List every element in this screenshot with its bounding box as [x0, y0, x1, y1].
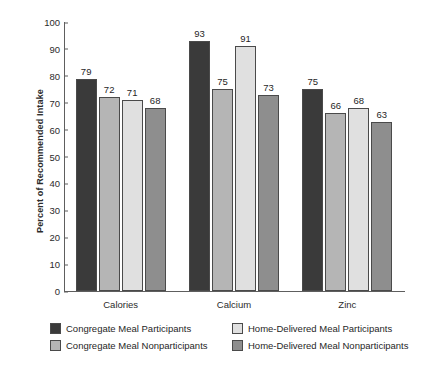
- legend-item[interactable]: Home-Delivered Meal Participants: [232, 323, 430, 334]
- bar-item[interactable]: 93: [189, 22, 210, 291]
- bar-value-label: 68: [354, 95, 365, 106]
- bar[interactable]: [76, 79, 97, 292]
- y-axis-tick-label: 70: [49, 97, 64, 108]
- y-axis-tick: 10: [49, 259, 64, 270]
- bar-item[interactable]: 68: [348, 22, 369, 291]
- bar-item[interactable]: 79: [76, 22, 97, 291]
- bar-group-bars: 79727168: [64, 22, 177, 291]
- y-axis-tick: 50: [49, 151, 64, 162]
- bar[interactable]: [122, 100, 143, 291]
- y-axis-tick: 60: [49, 124, 64, 135]
- legend-label: Home-Delivered Meal Nonparticipants: [248, 340, 409, 351]
- legend-label: Congregate Meal Participants: [66, 323, 191, 334]
- bar[interactable]: [325, 113, 346, 291]
- y-axis-tick: 0: [55, 286, 64, 297]
- bar-value-label: 72: [104, 84, 115, 95]
- y-axis-tick-label: 20: [49, 232, 64, 243]
- bar-item[interactable]: 66: [325, 22, 346, 291]
- bar[interactable]: [371, 122, 392, 291]
- bar-value-label: 68: [150, 95, 161, 106]
- y-axis-tick-label: 10: [49, 259, 64, 270]
- bar-value-label: 93: [194, 28, 205, 39]
- bar-item[interactable]: 75: [302, 22, 323, 291]
- bar-value-label: 71: [127, 87, 138, 98]
- x-axis-category-label: Zinc: [291, 299, 404, 310]
- bar-item[interactable]: 75: [212, 22, 233, 291]
- bar-item[interactable]: 72: [99, 22, 120, 291]
- bar-group-bars: 75666863: [291, 22, 404, 291]
- bar-item[interactable]: 63: [371, 22, 392, 291]
- y-axis-tick-label: 40: [49, 178, 64, 189]
- bar-value-label: 66: [331, 100, 342, 111]
- plot-area: 0102030405060708090100 79727168Calories9…: [64, 22, 404, 291]
- y-axis-tick-label: 80: [49, 70, 64, 81]
- y-axis-tick: 40: [49, 178, 64, 189]
- legend-item[interactable]: Congregate Meal Participants: [50, 323, 232, 334]
- x-axis-line: [64, 291, 405, 292]
- bar-value-label: 63: [377, 109, 388, 120]
- bar-item[interactable]: 68: [145, 22, 166, 291]
- bar-value-label: 73: [263, 82, 274, 93]
- bar-chart: Percent of Recommended Intake 0102030405…: [0, 0, 434, 370]
- legend-label: Congregate Meal Nonparticipants: [66, 340, 208, 351]
- y-axis-tick: 20: [49, 232, 64, 243]
- bar-group: 79727168Calories: [64, 22, 177, 291]
- bar[interactable]: [145, 108, 166, 291]
- bar-item[interactable]: 71: [122, 22, 143, 291]
- y-axis-title: Percent of Recommended Intake: [35, 41, 45, 281]
- y-axis-tick: 80: [49, 70, 64, 81]
- legend-swatch-icon: [232, 340, 243, 351]
- y-axis-tick-label: 50: [49, 151, 64, 162]
- bar[interactable]: [235, 46, 256, 291]
- y-axis-tick: 70: [49, 97, 64, 108]
- bar-value-label: 75: [308, 76, 319, 87]
- bar[interactable]: [348, 108, 369, 291]
- legend-swatch-icon: [50, 323, 61, 334]
- y-axis-tick-label: 0: [55, 286, 64, 297]
- x-axis-category-label: Calcium: [177, 299, 290, 310]
- bar-group: 93759173Calcium: [177, 22, 290, 291]
- bar[interactable]: [99, 97, 120, 291]
- legend-swatch-icon: [50, 340, 61, 351]
- y-axis-tick-label: 100: [44, 17, 64, 28]
- y-axis-tick: 90: [49, 43, 64, 54]
- y-axis-tick-label: 60: [49, 124, 64, 135]
- y-axis-tick: 100: [44, 17, 64, 28]
- legend-label: Home-Delivered Meal Participants: [248, 323, 392, 334]
- bar-value-label: 79: [81, 66, 92, 77]
- legend-item[interactable]: Home-Delivered Meal Nonparticipants: [232, 340, 430, 351]
- bar-group-bars: 93759173: [177, 22, 290, 291]
- bar[interactable]: [189, 41, 210, 291]
- bar[interactable]: [212, 89, 233, 291]
- legend-swatch-icon: [232, 323, 243, 334]
- bar-group: 75666863Zinc: [291, 22, 404, 291]
- chart-legend: Congregate Meal ParticipantsHome-Deliver…: [50, 320, 430, 354]
- bar[interactable]: [258, 95, 279, 291]
- y-axis-tick: 30: [49, 205, 64, 216]
- legend-item[interactable]: Congregate Meal Nonparticipants: [50, 340, 232, 351]
- bar-value-label: 91: [240, 33, 251, 44]
- bar-item[interactable]: 73: [258, 22, 279, 291]
- bar[interactable]: [302, 89, 323, 291]
- y-axis-tick-label: 90: [49, 43, 64, 54]
- x-axis-category-label: Calories: [64, 299, 177, 310]
- y-axis-tick-label: 30: [49, 205, 64, 216]
- bar-value-label: 75: [217, 76, 228, 87]
- y-axis-tick-mark: [64, 291, 68, 292]
- bar-item[interactable]: 91: [235, 22, 256, 291]
